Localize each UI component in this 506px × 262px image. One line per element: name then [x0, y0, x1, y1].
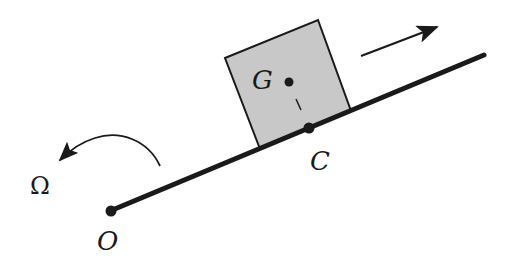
label-c: C — [310, 146, 330, 176]
label-g: G — [252, 65, 273, 95]
label-o: O — [97, 226, 118, 256]
point-c-dot — [304, 123, 315, 134]
physics-diagram: G C O Ω — [0, 0, 506, 262]
label-omega: Ω — [30, 172, 50, 200]
rotation-arrow-icon — [60, 135, 160, 166]
point-o-dot — [106, 206, 117, 217]
point-g-dot — [285, 78, 294, 87]
motion-arrow-icon — [361, 27, 437, 56]
